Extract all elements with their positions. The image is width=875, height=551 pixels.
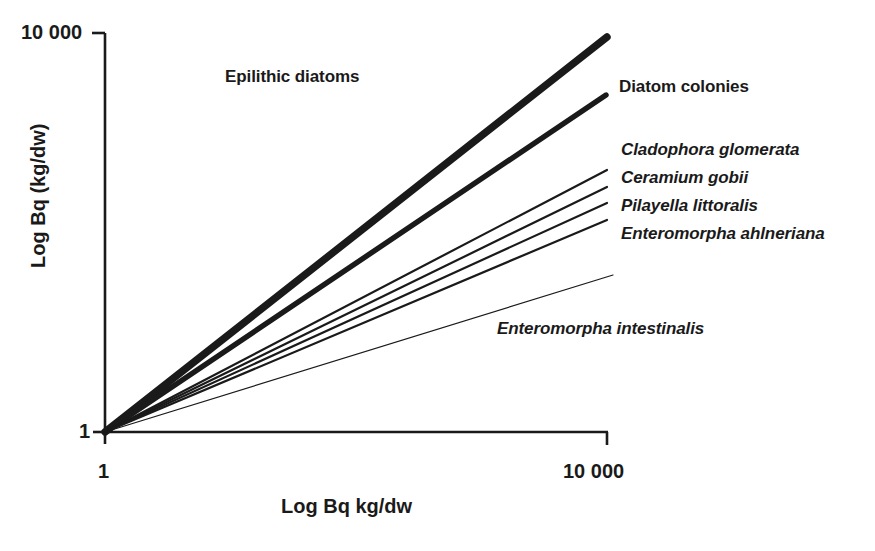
series-label-enteromorpha-intestinalis: Enteromorpha intestinalis bbox=[497, 320, 704, 337]
series-label-diatom-colonies: Diatom colonies bbox=[619, 78, 749, 95]
y-axis-bottom-tick-label: 1 bbox=[79, 421, 90, 441]
series-line-cladophora-glomerata bbox=[105, 170, 607, 432]
x-axis-title: Log Bq kg/dw bbox=[281, 496, 412, 516]
series-label-epilithic-diatoms: Epilithic diatoms bbox=[225, 68, 359, 85]
series-label-enteromorpha-ahlneriana: Enteromorpha ahlneriana bbox=[621, 225, 825, 242]
series-lines bbox=[105, 37, 613, 432]
y-axis-title: Log Bq (kg/dw) bbox=[28, 124, 48, 268]
series-label-pilayella-littoralis: Pilayella littoralis bbox=[621, 197, 758, 214]
chart-figure: 10 000 1 1 10 000 Log Bq (kg/dw) Log Bq … bbox=[0, 0, 875, 551]
series-line-diatom-colonies bbox=[105, 95, 606, 432]
series-label-ceramium-gobii: Ceramium gobii bbox=[621, 169, 748, 186]
series-label-cladophora-glomerata: Cladophora glomerata bbox=[621, 141, 799, 158]
y-axis-top-tick-label: 10 000 bbox=[21, 22, 82, 42]
x-axis-right-tick-label: 10 000 bbox=[563, 461, 624, 481]
series-line-ceramium-gobii bbox=[105, 187, 607, 432]
x-axis-left-tick-label: 1 bbox=[98, 461, 109, 481]
series-line-epilithic-diatoms bbox=[105, 37, 607, 432]
